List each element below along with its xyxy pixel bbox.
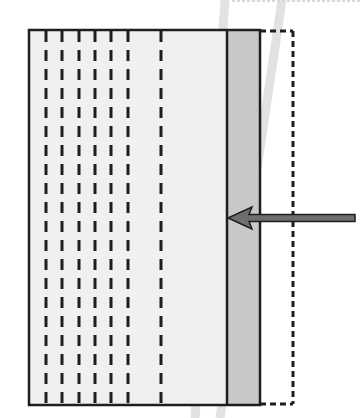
- dash-segment: [160, 373, 163, 384]
- dash-segment: [61, 392, 64, 403]
- dash-segment: [78, 31, 81, 42]
- dash-segment: [160, 221, 163, 232]
- dash-segment: [160, 145, 163, 156]
- dash-segment: [45, 50, 48, 61]
- dash-segment: [160, 316, 163, 327]
- dash-segment: [78, 221, 81, 232]
- dash-segment: [78, 164, 81, 175]
- dash-segment: [110, 278, 113, 289]
- dash-segment: [127, 221, 130, 232]
- dash-segment: [61, 183, 64, 194]
- dash-segment: [94, 221, 97, 232]
- dash-segment: [110, 50, 113, 61]
- dash-segment: [78, 202, 81, 213]
- dash-segment: [127, 259, 130, 270]
- dash-segment: [61, 202, 64, 213]
- dash-segment: [78, 145, 81, 156]
- dash-segment: [45, 126, 48, 137]
- dash-segment: [61, 335, 64, 346]
- dash-segment: [110, 202, 113, 213]
- dash-segment: [127, 240, 130, 251]
- dash-segment: [61, 354, 64, 365]
- dash-segment: [110, 392, 113, 403]
- dash-segment: [45, 145, 48, 156]
- dash-segment: [78, 240, 81, 251]
- dash-segment: [110, 354, 113, 365]
- dash-segment: [160, 164, 163, 175]
- dash-segment: [94, 88, 97, 99]
- dash-segment: [45, 259, 48, 270]
- diagram-canvas: [0, 0, 360, 418]
- dash-segment: [110, 69, 113, 80]
- dash-segment: [160, 240, 163, 251]
- dash-segment: [160, 183, 163, 194]
- dash-segment: [78, 373, 81, 384]
- dash-segment: [45, 354, 48, 365]
- dash-segment: [94, 183, 97, 194]
- dash-segment: [45, 107, 48, 118]
- dash-segment: [61, 88, 64, 99]
- dash-segment: [45, 202, 48, 213]
- dash-segment: [61, 297, 64, 308]
- dash-segment: [110, 145, 113, 156]
- dash-segment: [78, 278, 81, 289]
- dash-segment: [61, 316, 64, 327]
- dash-segment: [61, 31, 64, 42]
- dash-segment: [110, 335, 113, 346]
- dash-segment: [45, 88, 48, 99]
- dash-segment: [110, 297, 113, 308]
- dash-segment: [127, 202, 130, 213]
- dash-segment: [78, 50, 81, 61]
- dash-segment: [45, 164, 48, 175]
- dash-segment: [160, 354, 163, 365]
- dash-segment: [94, 145, 97, 156]
- dash-segment: [94, 69, 97, 80]
- dash-segment: [45, 240, 48, 251]
- dash-segment: [160, 202, 163, 213]
- dash-segment: [61, 278, 64, 289]
- dash-segment: [61, 69, 64, 80]
- dash-segment: [61, 373, 64, 384]
- dash-segment: [94, 278, 97, 289]
- dash-segment: [94, 164, 97, 175]
- dash-segment: [160, 297, 163, 308]
- dash-segment: [94, 240, 97, 251]
- dash-segment: [127, 69, 130, 80]
- dash-segment: [127, 164, 130, 175]
- dash-segment: [94, 373, 97, 384]
- dash-segment: [160, 69, 163, 80]
- dash-segment: [45, 392, 48, 403]
- dash-segment: [78, 354, 81, 365]
- dash-segment: [94, 316, 97, 327]
- dash-segment: [78, 183, 81, 194]
- dash-segment: [94, 335, 97, 346]
- dash-segment: [78, 392, 81, 403]
- dash-segment: [127, 316, 130, 327]
- dash-segment: [160, 88, 163, 99]
- dash-segment: [78, 88, 81, 99]
- dash-segment: [127, 107, 130, 118]
- dash-segment: [94, 202, 97, 213]
- dash-segment: [160, 259, 163, 270]
- dash-segment: [127, 335, 130, 346]
- dash-segment: [94, 392, 97, 403]
- dash-segment: [110, 240, 113, 251]
- dash-segment: [94, 107, 97, 118]
- dash-segment: [45, 278, 48, 289]
- dash-segment: [160, 107, 163, 118]
- dash-segment: [78, 69, 81, 80]
- dash-segment: [94, 354, 97, 365]
- dash-segment: [160, 392, 163, 403]
- dash-segment: [110, 183, 113, 194]
- dash-segment: [160, 126, 163, 137]
- dash-segment: [61, 259, 64, 270]
- dash-segment: [94, 31, 97, 42]
- dash-segment: [61, 126, 64, 137]
- dash-segment: [94, 50, 97, 61]
- dash-segment: [110, 164, 113, 175]
- dash-segment: [127, 145, 130, 156]
- dash-segment: [110, 221, 113, 232]
- dash-segment: [45, 31, 48, 42]
- dash-segment: [127, 392, 130, 403]
- dash-segment: [160, 50, 163, 61]
